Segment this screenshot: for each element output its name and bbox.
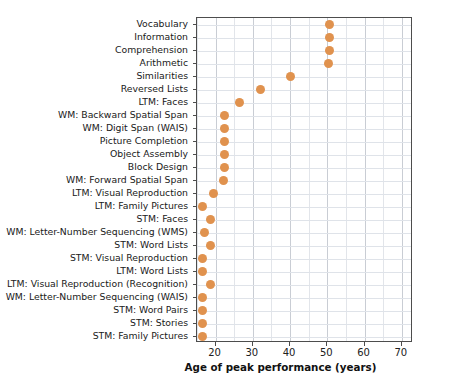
data-point: [286, 72, 295, 81]
gridline-horizontal: [197, 103, 411, 104]
gridline-vertical: [216, 18, 217, 341]
gridline-horizontal: [197, 77, 411, 78]
data-point: [220, 163, 229, 172]
y-axis-tick: [193, 154, 197, 155]
y-axis-tick: [193, 128, 197, 129]
y-axis-tick: [193, 63, 197, 64]
x-axis-tick-label: 40: [283, 347, 296, 358]
data-point: [206, 215, 215, 224]
y-axis-tick: [193, 219, 197, 220]
y-axis-tick-label: STM: Stories: [130, 318, 188, 328]
data-point: [325, 33, 334, 42]
plot-area: [196, 17, 412, 342]
y-axis-tick-label: WM: Digit Span (WAIS): [83, 123, 188, 133]
data-point: [198, 319, 207, 328]
gridline-vertical: [365, 18, 366, 341]
gridline-vertical: [271, 18, 272, 341]
data-point: [206, 280, 215, 289]
y-axis-tick-label: WM: Letter-Number Sequencing (WMS): [6, 227, 188, 237]
gridline-vertical: [290, 18, 291, 341]
y-axis-tick: [193, 167, 197, 168]
gridline-horizontal: [197, 220, 411, 221]
data-point: [324, 59, 333, 68]
gridline-horizontal: [197, 272, 411, 273]
gridline-horizontal: [197, 155, 411, 156]
gridline-horizontal: [197, 116, 411, 117]
gridline-horizontal: [197, 168, 411, 169]
data-point: [198, 202, 207, 211]
gridline-vertical: [253, 18, 254, 341]
gridline-horizontal: [197, 233, 411, 234]
y-axis-tick-label: Arithmetic: [140, 58, 188, 68]
data-point: [256, 85, 265, 94]
data-point: [198, 306, 207, 315]
y-axis-tick: [193, 323, 197, 324]
gridline-horizontal: [197, 142, 411, 143]
y-axis-tick-label: STM: Family Pictures: [93, 331, 188, 341]
y-axis-tick: [193, 102, 197, 103]
y-axis-tick: [193, 271, 197, 272]
data-point: [209, 189, 218, 198]
y-axis-tick-label: Picture Completion: [100, 136, 188, 146]
gridline-horizontal: [197, 285, 411, 286]
data-point: [220, 111, 229, 120]
gridline-horizontal: [197, 246, 411, 247]
gridline-horizontal: [197, 324, 411, 325]
y-axis-tick-label: STM: Word Lists: [114, 240, 188, 250]
x-axis-tick-label: 50: [320, 347, 333, 358]
data-point: [200, 228, 209, 237]
y-axis-tick: [193, 141, 197, 142]
y-axis-tick: [193, 50, 197, 51]
y-axis-tick: [193, 258, 197, 259]
y-axis-tick-label: LTM: Family Pictures: [95, 201, 188, 211]
gridline-vertical: [346, 18, 347, 341]
gridline-horizontal: [197, 207, 411, 208]
x-axis-tick-label: 60: [357, 347, 370, 358]
y-axis-tick-label: Vocabulary: [136, 19, 188, 29]
data-point: [220, 150, 229, 159]
data-point: [220, 124, 229, 133]
x-axis-tick: [289, 342, 290, 346]
y-axis-tick-label: LTM: Visual Reproduction (Recognition): [7, 279, 188, 289]
data-point: [198, 332, 207, 341]
y-axis-tick-label: WM: Backward Spatial Span: [58, 110, 188, 120]
data-point: [206, 241, 215, 250]
y-axis-tick-label: LTM: Word Lists: [116, 266, 188, 276]
data-point: [198, 293, 207, 302]
data-point: [198, 267, 207, 276]
x-axis-tick: [215, 342, 216, 346]
y-axis-tick-label: Block Design: [128, 162, 188, 172]
y-axis-tick-label: WM: Forward Spatial Span: [66, 175, 188, 185]
y-axis-tick-label: STM: Visual Reproduction: [70, 253, 188, 263]
gridline-vertical: [197, 18, 198, 341]
y-axis-tick-label: LTM: Faces: [138, 97, 188, 107]
gridline-horizontal: [197, 25, 411, 26]
y-axis-tick: [193, 24, 197, 25]
y-axis-tick: [193, 310, 197, 311]
y-axis-tick-label: STM: Word Pairs: [113, 305, 188, 315]
gridline-horizontal: [197, 38, 411, 39]
data-point: [235, 98, 244, 107]
y-axis-tick: [193, 89, 197, 90]
gridline-horizontal: [197, 90, 411, 91]
y-axis-tick-label: WM: Letter-Number Sequencing (WAIS): [6, 292, 188, 302]
gridline-horizontal: [197, 64, 411, 65]
gridline-horizontal: [197, 311, 411, 312]
gridline-horizontal: [197, 259, 411, 260]
y-axis-tick: [193, 193, 197, 194]
data-point: [220, 137, 229, 146]
gridline-horizontal: [197, 51, 411, 52]
y-axis-tick: [193, 115, 197, 116]
gridline-horizontal: [197, 129, 411, 130]
x-axis-title: Age of peak performance (years): [0, 361, 451, 373]
y-axis-tick: [193, 284, 197, 285]
x-axis-tick-label: 20: [208, 347, 221, 358]
x-axis-tick-label: 70: [394, 347, 407, 358]
scatter-chart-figure: VocabularyInformationComprehensionArithm…: [0, 0, 451, 381]
y-axis-tick-label: LTM: Visual Reproduction: [72, 188, 188, 198]
y-axis-tick-label: Information: [134, 32, 188, 42]
gridline-horizontal: [197, 181, 411, 182]
y-axis-tick: [193, 37, 197, 38]
gridline-horizontal: [197, 194, 411, 195]
y-axis-tick: [193, 76, 197, 77]
